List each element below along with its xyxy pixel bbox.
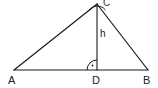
vertex-label-c: C — [103, 0, 110, 8]
right-angle-dot-icon — [92, 65, 94, 67]
triangle-figure — [0, 0, 158, 88]
vertex-label-b: B — [143, 75, 150, 86]
vertex-label-a: A — [8, 75, 15, 86]
geometry-diagram: A B C D h — [0, 0, 158, 88]
vertex-label-d: D — [92, 75, 100, 86]
altitude-label-h: h — [100, 29, 106, 39]
side-segment-AC — [14, 4, 97, 70]
